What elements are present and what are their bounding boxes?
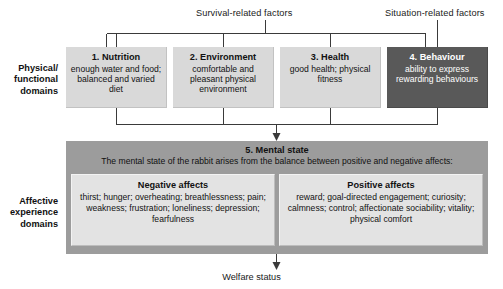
positive-affects-box[interactable]: Positive affects reward; goal-directed e…	[279, 174, 483, 246]
domain-box-behaviour[interactable]: 4. Behaviour ability to express rewardin…	[387, 47, 488, 108]
affective-domains-line-2: experience	[10, 207, 58, 217]
affective-domains-line-1: Affective	[19, 196, 58, 206]
domain-title-nutrition: 1. Nutrition	[70, 51, 162, 63]
domain-title-health: 3. Health	[284, 51, 376, 63]
domain-body-behaviour: ability to express rewarding behaviours	[391, 64, 483, 85]
affective-domains-line-3: domains	[20, 219, 58, 229]
positive-affects-title: Positive affects	[283, 179, 479, 192]
situation-related-factors-label: Situation-related factors	[385, 8, 485, 18]
survival-related-factors-label: Survival-related factors	[196, 8, 292, 18]
negative-affects-body: thirst; hunger; overheating; breathlessn…	[75, 192, 271, 225]
negative-affects-title: Negative affects	[75, 179, 271, 192]
diagram-canvas: Survival-related factors Situation-relat…	[0, 0, 503, 289]
domain-body-nutrition: enough water and food; balanced and vari…	[70, 64, 162, 95]
domain-body-health: good health; physical fitness	[284, 64, 376, 85]
negative-affects-box[interactable]: Negative affects thirst; hunger; overhea…	[71, 174, 275, 246]
mental-state-subtitle: The mental state of the rabbit arises fr…	[66, 156, 488, 167]
affect-boxes-row: Negative affects thirst; hunger; overhea…	[66, 174, 488, 246]
welfare-status-label: Welfare status	[0, 272, 503, 282]
mental-state-title: 5. Mental state	[66, 144, 488, 156]
affective-experience-domains-label: Affective experience domains	[0, 196, 58, 230]
domain-title-behaviour: 4. Behaviour	[391, 51, 483, 63]
arrow-to-welfare-head	[273, 262, 281, 270]
domain-box-health[interactable]: 3. Health good health; physical fitness	[280, 47, 381, 108]
physical-domains-line-2: functional	[14, 74, 58, 84]
domain-body-environment: comfortable and pleasant physical enviro…	[177, 64, 269, 95]
physical-domains-line-3: domains	[20, 86, 58, 96]
domain-title-environment: 2. Environment	[177, 51, 269, 63]
physical-functional-domains-label: Physical/ functional domains	[0, 63, 58, 97]
domain-box-nutrition[interactable]: 1. Nutrition enough water and food; bala…	[66, 47, 167, 108]
domain-box-environment[interactable]: 2. Environment comfortable and pleasant …	[173, 47, 274, 108]
positive-affects-body: reward; goal-directed engagement; curios…	[283, 192, 479, 225]
mental-state-panel[interactable]: 5. Mental state The mental state of the …	[66, 141, 488, 254]
arrow-to-mental-state-head	[273, 133, 281, 141]
physical-domains-line-1: Physical/	[18, 63, 58, 73]
